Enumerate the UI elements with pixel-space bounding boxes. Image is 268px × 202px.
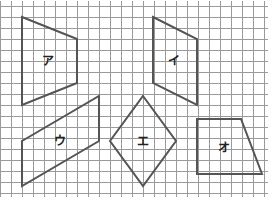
- grid-diagram: ア イ ウ エ オ: [0, 0, 268, 202]
- grid-lines: [0, 1, 268, 197]
- label-a: ア: [42, 54, 54, 68]
- label-u: ウ: [54, 134, 66, 148]
- label-e: エ: [137, 135, 149, 149]
- label-i: イ: [168, 54, 180, 68]
- label-o: オ: [218, 141, 230, 155]
